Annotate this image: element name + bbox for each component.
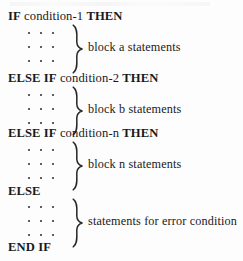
ellipsis-dot xyxy=(40,60,42,62)
ellipsis-dot xyxy=(40,94,42,96)
code-line-if-condition-1: IF condition-1 THEN xyxy=(8,10,123,23)
ellipsis-dot xyxy=(52,149,54,151)
keyword-if: IF xyxy=(44,126,57,140)
ellipsis-dot xyxy=(28,149,30,151)
ellipsis-dot xyxy=(52,108,54,110)
ellipsis-dot xyxy=(28,234,30,236)
ellipsis-dot xyxy=(52,163,54,165)
ellipsis-dot xyxy=(28,177,30,179)
ellipsis-dot xyxy=(52,60,54,62)
ellipsis-grid-b xyxy=(26,89,68,131)
keyword-else: ELSE xyxy=(8,71,41,85)
ellipsis-dot xyxy=(40,177,42,179)
ellipsis-dot xyxy=(28,46,30,48)
ellipsis-dot xyxy=(40,220,42,222)
code-line-else-if-condition-2: ELSE IF condition-2 THEN xyxy=(8,72,158,85)
ellipsis-row xyxy=(26,42,68,55)
keyword-if: IF xyxy=(8,9,21,23)
ellipsis-dot xyxy=(52,234,54,236)
ellipsis-dot xyxy=(40,108,42,110)
statement-block-a: block a statements xyxy=(26,27,240,69)
ellipsis-dot xyxy=(28,163,30,165)
keyword-then: THEN xyxy=(122,126,158,140)
keyword-else: ELSE xyxy=(8,184,41,198)
code-line-else-if-condition-n: ELSE IF condition-n THEN xyxy=(8,127,158,140)
scan-noise xyxy=(10,2,210,6)
ellipsis-dot xyxy=(28,206,30,208)
identifier-condition-1: condition-1 xyxy=(24,9,83,23)
block-annotation-a: block a statements xyxy=(88,40,181,54)
ellipsis-row xyxy=(26,159,68,172)
ellipsis-row xyxy=(26,104,68,117)
ellipsis-dot xyxy=(40,163,42,165)
ellipsis-dot xyxy=(28,108,30,110)
statement-block-error: statements for error condition xyxy=(26,201,240,243)
ellipsis-dot xyxy=(40,122,42,124)
ellipsis-dot xyxy=(52,177,54,179)
keyword-then: THEN xyxy=(86,9,122,23)
ellipsis-dot xyxy=(40,149,42,151)
ellipsis-row xyxy=(26,90,68,103)
ellipsis-dot xyxy=(52,46,54,48)
ellipsis-grid-n xyxy=(26,144,68,186)
identifier-condition-2: condition-2 xyxy=(60,71,119,85)
ellipsis-dot xyxy=(28,122,30,124)
ellipsis-grid-error xyxy=(26,201,68,243)
ellipsis-dot xyxy=(28,60,30,62)
statement-block-b: block b statements xyxy=(26,89,240,131)
statement-block-n: block n statements xyxy=(26,144,240,186)
code-line-end-if: END IF xyxy=(8,241,51,254)
ellipsis-dot xyxy=(40,46,42,48)
keyword-end: END xyxy=(8,240,35,254)
block-annotation-error: statements for error condition xyxy=(88,214,237,228)
curly-brace-icon xyxy=(70,141,88,191)
ellipsis-dot xyxy=(40,32,42,34)
ellipsis-dot xyxy=(28,220,30,222)
ellipsis-row xyxy=(26,145,68,158)
keyword-then: THEN xyxy=(122,71,158,85)
identifier-condition-n: condition-n xyxy=(60,126,119,140)
block-annotation-n: block n statements xyxy=(88,157,181,171)
ellipsis-dot xyxy=(52,122,54,124)
block-annotation-b: block b statements xyxy=(88,102,181,116)
ellipsis-row xyxy=(26,216,68,229)
code-line-else: ELSE xyxy=(8,185,41,198)
keyword-if: IF xyxy=(38,240,51,254)
ellipsis-grid-a xyxy=(26,27,68,69)
curly-brace-icon xyxy=(70,198,88,248)
ellipsis-dot xyxy=(52,206,54,208)
keyword-if: IF xyxy=(44,71,57,85)
ellipsis-dot xyxy=(28,32,30,34)
curly-brace-icon xyxy=(70,24,88,74)
ellipsis-dot xyxy=(28,94,30,96)
ellipsis-dot xyxy=(40,234,42,236)
ellipsis-dot xyxy=(52,94,54,96)
ellipsis-row xyxy=(26,202,68,215)
ellipsis-row xyxy=(26,56,68,69)
ellipsis-dot xyxy=(52,220,54,222)
ellipsis-dot xyxy=(40,206,42,208)
ellipsis-dot xyxy=(52,32,54,34)
keyword-else: ELSE xyxy=(8,126,41,140)
pseudocode-figure: IF condition-1 THEN xyxy=(0,0,243,261)
ellipsis-row xyxy=(26,28,68,41)
